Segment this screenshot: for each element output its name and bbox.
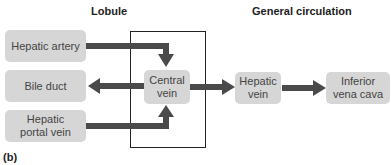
hepatic-to-ivc-head [313,80,326,96]
bile-arrow-shaft [99,83,144,89]
node-hepatic-vein: Hepatic vein [235,72,281,104]
node-bile-duct: Bile duct [5,70,86,102]
panel-label: (b) [3,151,17,163]
node-hepatic-portal-vein: Hepatic portal vein [5,110,86,142]
bile-arrow-head [88,78,100,94]
central-to-hepatic-shaft [190,84,223,90]
portal-arrow-shaft [85,123,169,129]
node-hepatic-artery: Hepatic artery [5,30,86,62]
node-central-vein: Central vein [144,70,190,104]
artery-arrow-shaft [85,43,169,49]
artery-arrow-head [158,54,174,67]
central-to-hepatic-head [222,79,235,95]
portal-arrow-head [158,105,174,117]
hepatic-to-ivc-shaft [282,85,314,91]
node-inferior-vena-cava: Inferior vena cava [326,72,390,104]
